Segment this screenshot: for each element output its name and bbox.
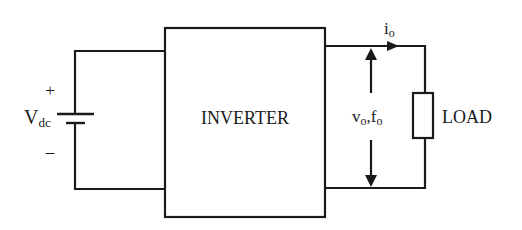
output-voltage-frequency-label: vo,fo xyxy=(352,107,382,128)
source-minus-sign: – xyxy=(45,142,55,161)
load-resistor xyxy=(413,93,433,138)
source-voltage-label: Vdc xyxy=(24,106,51,130)
voltage-arrow-up-icon xyxy=(365,48,377,60)
output-top-wire xyxy=(325,46,425,93)
output-bottom-wire xyxy=(325,138,425,188)
output-current-label: io xyxy=(384,19,395,40)
current-arrow-icon xyxy=(387,41,399,51)
load-label: LOAD xyxy=(442,107,492,127)
source-plus-sign: + xyxy=(45,81,55,100)
inverter-diagram: + – Vdc INVERTER io vo,fo LOAD xyxy=(0,0,522,230)
inverter-label: INVERTER xyxy=(201,108,289,128)
voltage-arrow-down-icon xyxy=(365,175,377,187)
dc-top-wire xyxy=(75,51,165,114)
dc-bottom-wire xyxy=(75,123,165,189)
